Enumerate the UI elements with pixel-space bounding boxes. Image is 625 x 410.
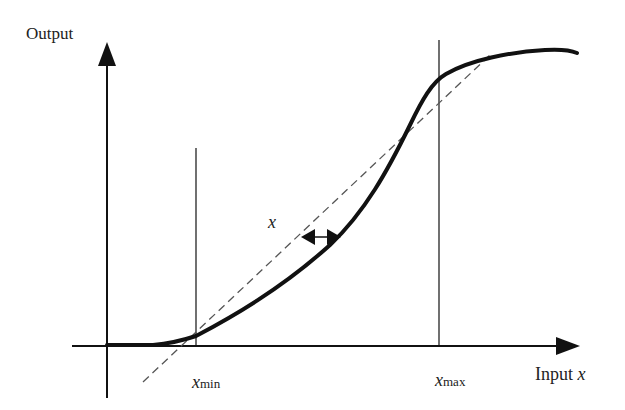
deviation-arrow-left-icon <box>301 229 315 245</box>
x-axis-var: x <box>578 364 586 384</box>
xmax-sub: max <box>443 374 465 389</box>
deviation-label: x <box>268 212 276 233</box>
nonlinearity-diagram <box>0 0 625 410</box>
xmin-var: x <box>192 372 200 392</box>
response-curve <box>107 50 577 345</box>
xmax-label: xmax <box>435 370 465 391</box>
xmax-var: x <box>435 370 443 390</box>
x-axis-label: Input x <box>535 364 586 385</box>
ideal-linear-line <box>143 55 490 382</box>
y-axis-arrow-icon <box>98 42 116 66</box>
xmin-label: xmin <box>192 372 220 393</box>
x-axis-label-text: Input <box>535 364 573 384</box>
xmin-sub: min <box>200 376 220 391</box>
deviation-var: x <box>268 212 276 232</box>
y-axis-label: Output <box>26 24 73 44</box>
x-axis-arrow-icon <box>556 337 580 355</box>
